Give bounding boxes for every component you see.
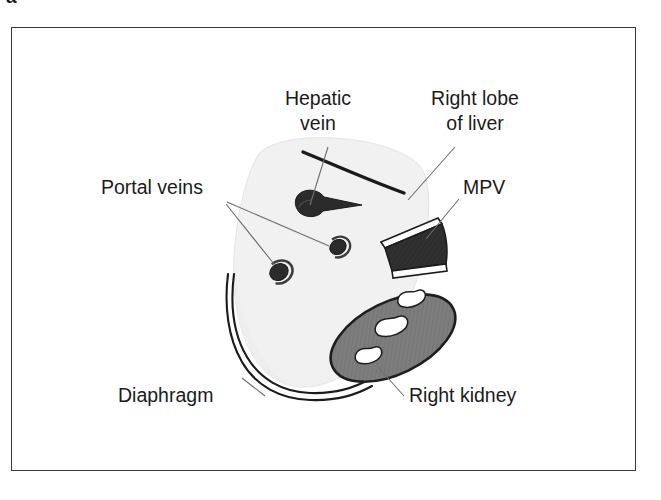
label-portal-veins: Portal veins bbox=[101, 176, 203, 198]
label-right-kidney: Right kidney bbox=[409, 384, 517, 406]
label-hepatic-vein-line2: vein bbox=[300, 112, 336, 134]
leader-line-diaphragm bbox=[242, 378, 265, 396]
label-mpv: MPV bbox=[463, 176, 505, 198]
label-right-lobe-of-liver-line2: of liver bbox=[446, 112, 504, 134]
label-right-lobe-of-liver-line1: Right lobe bbox=[431, 87, 519, 109]
label-diaphragm: Diaphragm bbox=[118, 384, 213, 406]
figure-root: a bbox=[0, 0, 661, 500]
label-hepatic-vein-line1: Hepatic bbox=[285, 87, 351, 109]
anatomy-illustration: Hepatic vein Right lobe of liver Portal … bbox=[0, 0, 661, 500]
